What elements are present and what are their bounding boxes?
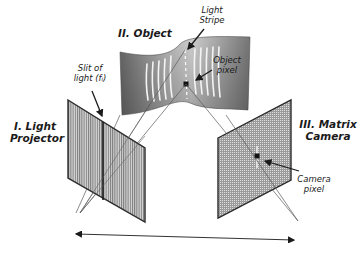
camera-pixel-label-line2: pixel [294, 185, 334, 195]
camera-title-line2: Camera [297, 130, 359, 142]
camera-pixel-label: Camera pixel [294, 175, 334, 195]
slit-label-line2: light (fᵢ) [68, 74, 112, 84]
projector-title: I. Light Projector [10, 120, 60, 144]
slit-label: Slit of light (fᵢ) [68, 64, 112, 84]
object-pixel-label-line2: pixel [212, 66, 242, 76]
slit-pointer-arrow [92, 91, 102, 116]
projector-title-line2: Projector [10, 132, 60, 144]
baseline-arrow [76, 234, 294, 240]
projector-title-line1: I. Light [10, 120, 60, 132]
camera-title: III. Matrix Camera [297, 118, 359, 142]
diagram-canvas: II. Object Light Stripe Object pixel Sli… [0, 0, 362, 253]
projector-panel [68, 100, 145, 222]
object-title: II. Object [118, 27, 172, 39]
camera-title-line1: III. Matrix [297, 118, 359, 130]
camera-panel [218, 100, 298, 221]
object-surface [120, 37, 250, 115]
light-stripe-label: Light Stripe [197, 6, 227, 26]
object-pixel-label: Object pixel [212, 56, 242, 76]
light-stripe-label-line2: Stripe [197, 16, 227, 26]
